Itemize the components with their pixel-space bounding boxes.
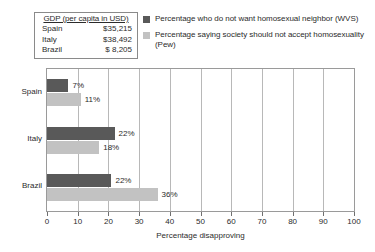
x-axis-tick [262,212,263,216]
x-axis-tick [108,212,109,216]
bar-value-label: 18% [103,141,119,154]
bar [47,93,81,106]
gdp-table-row: Italy $38,492 [35,35,137,46]
x-axis-tick-label: 40 [158,217,182,226]
x-axis-tick-label: 80 [281,217,305,226]
legend-entry-pew: Percentage saying society should not acc… [143,30,371,51]
legend-entry-label: Percentage who do not want homosexual ne… [155,14,358,25]
x-axis-tick-label: 20 [96,217,120,226]
x-axis-tick-label: 100 [342,217,366,226]
bar [47,174,111,187]
gdp-row-value: $38,492 [103,35,132,46]
gdp-row-value: $35,215 [103,24,132,35]
x-axis-tick-label: 60 [219,217,243,226]
gridline [262,69,263,211]
y-axis-tick-label: Brazil [0,181,42,190]
legend-swatch-icon [143,32,150,39]
x-axis-tick-label: 90 [311,217,335,226]
plot-area: 7%11%22%18%22%36% [46,68,355,212]
x-axis-tick-label: 50 [189,217,213,226]
chart-legend: Percentage who do not want homosexual ne… [143,14,371,56]
bar-value-label: 22% [119,127,135,140]
gridline [293,69,294,211]
chart-header-area: GDP (per capita in USD) Spain $35,215 It… [0,0,375,66]
gdp-table-header: GDP (per capita in USD) [35,14,137,24]
x-axis-tick [170,212,171,216]
bar [47,141,99,154]
x-axis-tick-label: 0 [35,217,59,226]
x-axis-tick [78,212,79,216]
x-axis-tick-label: 30 [127,217,151,226]
gdp-table: GDP (per capita in USD) Spain $35,215 It… [34,12,138,59]
gdp-row-country: Brazil [42,45,62,56]
gdp-row-value: $ 8,205 [105,45,132,56]
legend-entry-label: Percentage saying society should not acc… [155,30,371,51]
bar-value-label: 22% [115,174,131,187]
x-axis-tick [47,212,48,216]
gdp-row-country: Italy [42,35,57,46]
x-axis-title: Percentage disapproving [46,231,355,240]
legend-entry-wvs: Percentage who do not want homosexual ne… [143,14,371,25]
x-axis-tick [231,212,232,216]
gridline [323,69,324,211]
y-axis-tick-label: Italy [0,134,42,143]
x-axis-tick [293,212,294,216]
bar [47,79,68,92]
x-axis-tick [139,212,140,216]
gridline [201,69,202,211]
gdp-table-row: Brazil $ 8,205 [35,45,137,56]
x-axis-tick-label: 10 [66,217,90,226]
bar [47,188,158,201]
gridline [231,69,232,211]
gdp-table-row: Spain $35,215 [35,24,137,35]
gdp-row-country: Spain [42,24,62,35]
bar [47,127,115,140]
x-axis-tick [354,212,355,216]
x-axis-tick-label: 70 [250,217,274,226]
x-axis-tick [323,212,324,216]
bar-value-label: 7% [72,79,84,92]
y-axis-tick-label: Spain [0,87,42,96]
bar-value-label: 11% [85,93,100,106]
x-axis-tick [201,212,202,216]
bar-value-label: 36% [162,188,178,201]
legend-swatch-icon [143,16,150,23]
